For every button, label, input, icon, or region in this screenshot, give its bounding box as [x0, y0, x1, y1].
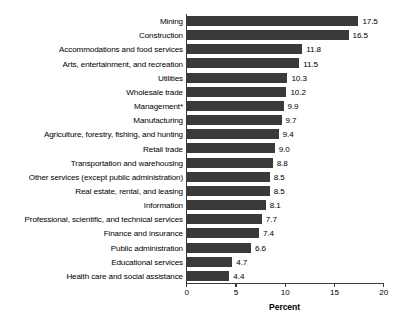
bar-row: Utilities10.3	[186, 71, 383, 85]
category-label: Retail trade	[143, 144, 183, 153]
category-label: Finance and insurance	[104, 229, 183, 238]
plot-area: Mining17.5Construction16.5Accommodations…	[186, 14, 383, 283]
bar-row: Accommodations and food services11.8	[186, 42, 383, 56]
bar-rows: Mining17.5Construction16.5Accommodations…	[186, 14, 383, 283]
bar	[186, 186, 270, 196]
category-label: Utilities	[158, 73, 183, 82]
bar	[186, 16, 358, 26]
category-label: Real estate, rental, and leasing	[75, 186, 183, 195]
bar	[186, 228, 259, 238]
category-label: Construction	[139, 31, 183, 40]
bar-row: Real estate, rental, and leasing8.5	[186, 184, 383, 198]
bar	[186, 115, 282, 125]
bar-row: Information8.1	[186, 198, 383, 212]
bar-value-label: 11.8	[306, 45, 321, 54]
x-axis-title: Percent	[186, 302, 383, 312]
x-tick-label: 0	[184, 288, 189, 298]
bar	[186, 30, 349, 40]
bar-row: Arts, entertainment, and recreation11.5	[186, 56, 383, 70]
x-tick-label: 15	[330, 288, 339, 298]
bar-row: Mining17.5	[186, 14, 383, 28]
x-tick-label: 10	[281, 288, 290, 298]
x-tick	[285, 283, 286, 287]
bar	[186, 214, 262, 224]
category-label: Arts, entertainment, and recreation	[63, 59, 183, 68]
bar-value-label: 8.1	[270, 201, 281, 210]
bar	[186, 44, 302, 54]
bar-row: Transportation and warehousing8.8	[186, 156, 383, 170]
bar-value-label: 8.5	[274, 186, 285, 195]
bar	[186, 243, 251, 253]
category-label: Information	[144, 201, 183, 210]
x-tick	[334, 283, 335, 287]
bar-row: Wholesale trade10.2	[186, 85, 383, 99]
bar	[186, 73, 287, 83]
category-label: Management*	[134, 102, 183, 111]
bar-value-label: 7.4	[263, 229, 274, 238]
bar	[186, 87, 286, 97]
category-label: Health care and social assistance	[66, 271, 183, 280]
bar-row: Retail trade9.0	[186, 141, 383, 155]
bar-row: Agriculture, forestry, fishing, and hunt…	[186, 127, 383, 141]
bar-value-label: 6.6	[255, 243, 266, 252]
category-label: Wholesale trade	[126, 87, 183, 96]
x-tick	[383, 283, 384, 287]
bar-row: Educational services4.7	[186, 255, 383, 269]
x-tick	[186, 283, 187, 287]
bar-value-label: 9.0	[279, 144, 290, 153]
bar-row: Health care and social assistance4.4	[186, 269, 383, 283]
bar-value-label: 4.4	[233, 271, 244, 280]
bar	[186, 129, 279, 139]
bar-value-label: 17.5	[362, 17, 377, 26]
bar-value-label: 16.5	[353, 31, 368, 40]
bar-row: Construction16.5	[186, 28, 383, 42]
bar	[186, 257, 232, 267]
category-label: Professional, scientific, and technical …	[25, 215, 183, 224]
x-tick-label: 5	[234, 288, 239, 298]
bar-value-label: 9.4	[283, 130, 294, 139]
bar	[186, 271, 229, 281]
bar-row: Other services (except public administra…	[186, 170, 383, 184]
category-label: Accommodations and food services	[59, 45, 183, 54]
category-label: Mining	[160, 17, 183, 26]
category-label: Agriculture, forestry, fishing, and hunt…	[44, 130, 183, 139]
bar-row: Manufacturing9.7	[186, 113, 383, 127]
bar-value-label: 10.2	[290, 87, 305, 96]
bar	[186, 101, 284, 111]
bar	[186, 172, 270, 182]
category-label: Public administration	[111, 243, 183, 252]
bar-row: Public administration6.6	[186, 241, 383, 255]
category-label: Manufacturing	[133, 116, 183, 125]
bar	[186, 58, 299, 68]
category-label: Transportation and warehousing	[71, 158, 183, 167]
bar-value-label: 8.5	[274, 172, 285, 181]
bar-value-label: 10.3	[291, 73, 306, 82]
x-tick	[235, 283, 236, 287]
bar-chart: Mining17.5Construction16.5Accommodations…	[0, 0, 403, 328]
bar-row: Professional, scientific, and technical …	[186, 212, 383, 226]
category-label: Other services (except public administra…	[29, 172, 183, 181]
bar-value-label: 9.9	[288, 102, 299, 111]
bar-value-label: 9.7	[286, 116, 297, 125]
bar	[186, 158, 273, 168]
bar	[186, 143, 275, 153]
bar-value-label: 8.8	[277, 158, 288, 167]
bar	[186, 200, 266, 210]
bar-value-label: 7.7	[266, 215, 277, 224]
x-tick-label: 20	[379, 288, 388, 298]
category-label: Educational services	[111, 257, 183, 266]
bar-value-label: 11.5	[303, 59, 318, 68]
bar-row: Management*9.9	[186, 99, 383, 113]
bar-value-label: 4.7	[236, 257, 247, 266]
bar-row: Finance and insurance7.4	[186, 226, 383, 240]
